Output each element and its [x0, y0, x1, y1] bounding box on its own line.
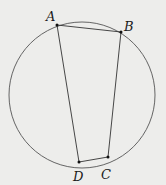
segment-CD: [79, 157, 108, 162]
point-C: [107, 156, 110, 159]
point-D: [78, 161, 81, 164]
label-C: C: [101, 167, 111, 182]
point-B: [120, 31, 123, 34]
point-A: [56, 24, 59, 27]
label-D: D: [72, 169, 84, 184]
label-B: B: [123, 19, 134, 34]
circle: [9, 22, 155, 168]
quadrilateral-sides: [57, 25, 121, 162]
segment-BC: [108, 32, 121, 157]
label-A: A: [45, 9, 55, 24]
inscribed-quadrilateral-diagram: A B C D: [0, 0, 166, 185]
segment-DA: [57, 25, 79, 162]
vertex-points: [56, 24, 123, 164]
